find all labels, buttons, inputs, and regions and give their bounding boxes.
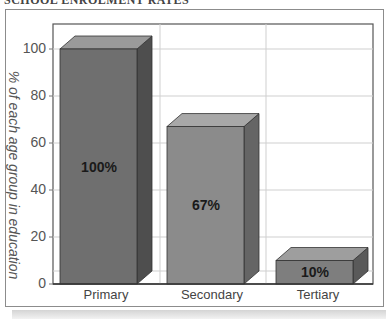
bar-value-tertiary: 10% (276, 264, 354, 280)
y-tick-0: 0 (20, 275, 46, 291)
y-tick-40: 40 (20, 181, 46, 197)
y-tick-80: 80 (20, 87, 46, 103)
x-label-primary: Primary (51, 287, 161, 302)
y-tick-20: 20 (20, 228, 46, 244)
y-tick-100: 100 (20, 40, 46, 56)
x-label-tertiary: Tertiary (263, 287, 373, 302)
bar-value-secondary: 67% (167, 197, 245, 213)
y-tick-60: 60 (20, 134, 46, 150)
bar-value-primary: 100% (60, 159, 138, 175)
x-label-secondary: Secondary (157, 287, 267, 302)
